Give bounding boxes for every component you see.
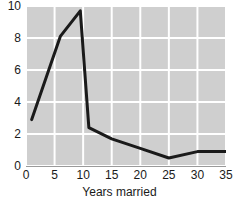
y-tick-label: 8 xyxy=(14,32,21,44)
x-tick-label: 30 xyxy=(191,169,204,181)
y-tick-label: 6 xyxy=(14,64,21,76)
x-tick-label: 5 xyxy=(51,169,58,181)
x-axis-tick-labels: 05101520253035 xyxy=(26,169,226,185)
x-tick-label: 10 xyxy=(76,169,89,181)
x-tick-label: 20 xyxy=(134,169,147,181)
x-tick-label: 25 xyxy=(162,169,175,181)
x-axis-line xyxy=(26,166,226,167)
chart-figure: 0246810 05101520253035 Years married xyxy=(0,0,239,202)
x-tick-label: 15 xyxy=(105,169,118,181)
y-axis-tick-labels: 0246810 xyxy=(0,6,24,166)
y-tick-label: 0 xyxy=(14,160,21,172)
x-tick-label: 35 xyxy=(219,169,232,181)
y-tick-label: 10 xyxy=(8,0,21,12)
y-tick-label: 2 xyxy=(14,128,21,140)
plot-area xyxy=(26,6,226,166)
x-axis-title: Years married xyxy=(0,186,239,198)
line-series xyxy=(26,6,226,166)
x-tick-label: 0 xyxy=(23,169,30,181)
y-tick-label: 4 xyxy=(14,96,21,108)
